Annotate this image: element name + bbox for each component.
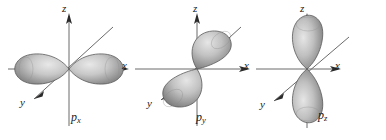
orbital-label-pz: pz	[318, 108, 327, 123]
orbital-label-pz-subscript: z	[324, 113, 327, 123]
axis-label-x-py: x	[244, 59, 249, 71]
axis-label-y-py: y	[147, 97, 152, 109]
axis-label-y-pz: y	[260, 98, 265, 110]
orbital-panel-py: z y x	[125, 0, 255, 140]
axis-x-pz	[256, 66, 341, 72]
orbital-panel-pz: z y x	[252, 0, 382, 140]
orbital-label-py-subscript: y	[202, 115, 206, 125]
axis-label-z-py: z	[193, 2, 197, 14]
p-orbital-figure: z y x	[0, 0, 386, 140]
orbital-label-px-subscript: x	[77, 115, 81, 125]
orbital-label-py: py	[196, 110, 206, 125]
axis-label-z-pz: z	[300, 2, 304, 14]
axis-label-z-px: z	[62, 2, 66, 14]
axis-label-x-pz: x	[335, 59, 340, 71]
axis-label-y-px: y	[20, 96, 25, 108]
orbital-diagram-px	[0, 0, 134, 140]
orbital-panel-px: z y x	[0, 0, 130, 140]
orbital-label-px: px	[71, 110, 81, 125]
orbital-diagram-py	[125, 0, 259, 140]
